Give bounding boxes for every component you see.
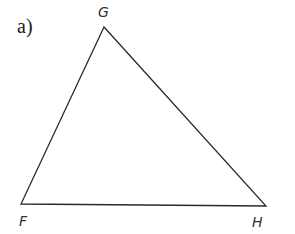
- vertex-label-g: G: [98, 4, 109, 20]
- triangle-fgh: [21, 27, 266, 206]
- part-label: a): [17, 15, 33, 38]
- triangle-diagram: a) G F H: [0, 0, 295, 234]
- vertex-label-h: H: [252, 214, 263, 230]
- vertex-label-f: F: [19, 213, 28, 229]
